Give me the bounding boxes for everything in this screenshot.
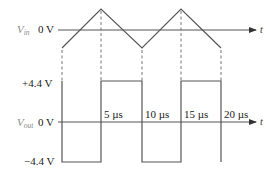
input-waveform-panel: Vin 0 V t [17, 9, 263, 48]
tick-15us: 15 µs [184, 108, 208, 120]
vout-low-label: −4.4 V [24, 155, 55, 167]
vout-high-label: +4.4 V [22, 77, 53, 89]
vout-label: Vout [17, 116, 34, 130]
tick-10us: 10 µs [145, 108, 169, 120]
waveform-diagram: Vin 0 V t +4.4 V Vout 0 V −4.4 V t 5 µs … [0, 0, 278, 177]
vin-t-label: t [260, 24, 263, 35]
vout-zero-label: 0 V [38, 116, 54, 128]
vin-label: Vin [17, 23, 30, 37]
vin-zero-label: 0 V [38, 23, 54, 35]
vout-t-label: t [260, 116, 263, 127]
tick-20us: 20 µs [224, 108, 248, 120]
alignment-dashes [62, 11, 221, 81]
tick-5us: 5 µs [104, 108, 123, 120]
triangle-wave [62, 9, 221, 48]
output-waveform-panel: +4.4 V Vout 0 V −4.4 V t 5 µs 10 µs 15 µ… [17, 77, 263, 167]
